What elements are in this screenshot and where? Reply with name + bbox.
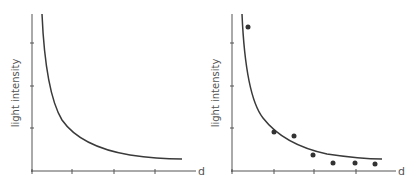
x-axis-label: d [198, 165, 205, 178]
data-point [331, 161, 336, 166]
inverse-square-curve [42, 14, 182, 159]
data-points [246, 25, 378, 167]
x-axis-label: d [398, 165, 405, 178]
y-axis [230, 14, 234, 172]
y-axis [30, 14, 34, 172]
x-axis [31, 169, 196, 174]
data-point [292, 134, 297, 139]
fitted-curve [242, 14, 382, 159]
chart-right-measurements: light intensity d [207, 0, 414, 183]
data-point [353, 161, 358, 166]
chart-right-svg: light intensity d [207, 0, 414, 183]
data-point [373, 162, 378, 167]
x-axis [231, 169, 396, 174]
data-point [246, 25, 251, 30]
y-axis-label: light intensity [210, 59, 221, 128]
chart-left-inverse-square: light intensity d [0, 0, 207, 183]
chart-left-svg: light intensity d [0, 0, 207, 183]
data-point [311, 153, 316, 158]
y-axis-label: light intensity [10, 59, 21, 128]
data-point [272, 130, 277, 135]
